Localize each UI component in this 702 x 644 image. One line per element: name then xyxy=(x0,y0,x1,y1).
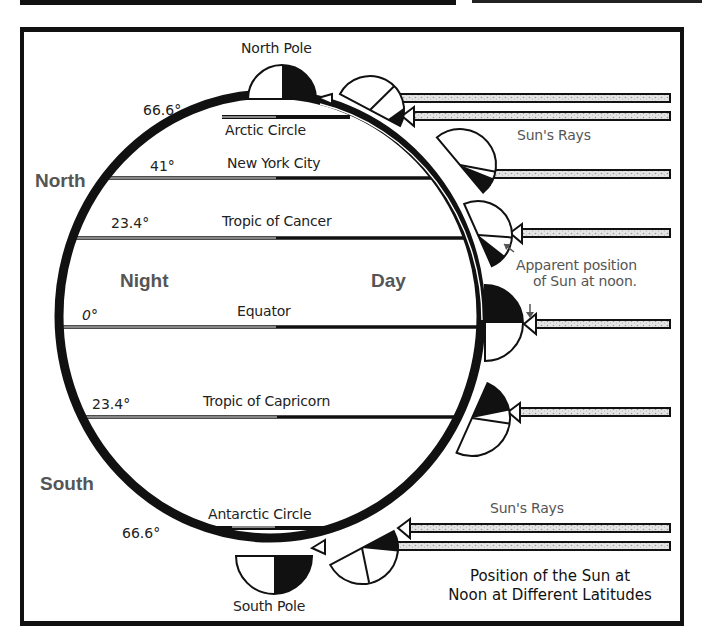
north-pole-sky-glyph xyxy=(248,65,316,99)
north-hemisphere-label: North xyxy=(35,170,86,192)
arctic-degree-label: 66.6° xyxy=(143,102,181,118)
sun-ray-tropic-cancer xyxy=(510,224,670,243)
south-pole-label: South Pole xyxy=(233,598,305,614)
day-label: Day xyxy=(371,270,406,292)
nyc-degree-label: 41° xyxy=(150,158,175,174)
arctic-circle-label: Arctic Circle xyxy=(225,122,306,138)
diagram-title-line2: Noon at Different Latitudes xyxy=(430,586,670,605)
south-pole-sky-glyph xyxy=(236,556,312,594)
apparent-position-line2: of Sun at noon. xyxy=(533,273,637,289)
equator-label: Equator xyxy=(237,303,291,319)
tropic-cancer-degree-label: 23.4° xyxy=(111,215,149,231)
sun-ray-north-pole xyxy=(395,94,670,102)
sun-ray-antarctic xyxy=(398,519,670,538)
sun-ray-nyc xyxy=(478,165,670,184)
sun-ray-equator xyxy=(524,314,670,334)
equator-degree-label: 0° xyxy=(82,307,98,323)
tropic-capricorn-degree-label: 23.4° xyxy=(92,396,130,412)
sun-position-diagram xyxy=(0,0,702,644)
tropic-cancer-label: Tropic of Cancer xyxy=(222,213,331,229)
diagram-title-line1: Position of the Sun at xyxy=(430,567,670,586)
sun-ray-arctic xyxy=(402,107,670,126)
south-hemisphere-label: South xyxy=(40,473,94,495)
tropic-capricorn-label: Tropic of Capricorn xyxy=(203,393,330,409)
suns-rays-label-bottom: Sun's Rays xyxy=(490,500,564,516)
sun-ray-south-pole xyxy=(395,542,670,550)
diagram-title: Position of the Sun at Noon at Different… xyxy=(430,567,670,605)
antarctic-degree-label: 66.6° xyxy=(122,525,160,541)
equator-sky-glyph xyxy=(485,285,523,361)
south-pole-arrow-tip xyxy=(312,540,325,554)
north-pole-label: North Pole xyxy=(241,40,312,56)
nyc-sky-glyph xyxy=(437,114,511,192)
suns-rays-label-top: Sun's Rays xyxy=(517,127,591,143)
apparent-position-line1: Apparent position xyxy=(516,257,637,273)
nyc-label: New York City xyxy=(227,155,320,171)
night-label: Night xyxy=(120,270,169,292)
antarctic-circle-label: Antarctic Circle xyxy=(208,506,311,522)
antarctic-sky-glyph xyxy=(330,531,410,597)
sun-ray-tropic-capricorn xyxy=(508,403,670,422)
